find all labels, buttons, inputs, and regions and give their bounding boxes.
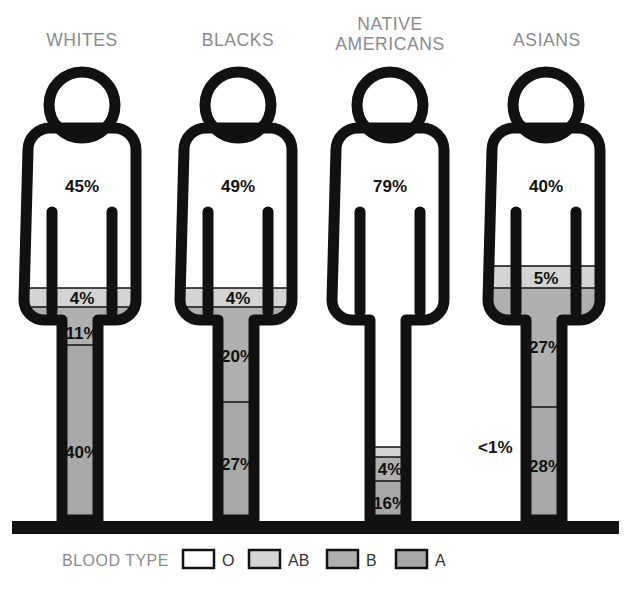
asians-label-B: 27% bbox=[529, 338, 563, 357]
legend-label-a: A bbox=[435, 552, 446, 569]
legend-swatch-a bbox=[396, 550, 427, 568]
legend-swatch-ab bbox=[249, 550, 280, 568]
native-americans-segment-AB bbox=[328, 447, 468, 457]
column-header-native-americans-line1: NATIVE bbox=[357, 14, 423, 34]
asians-label-AB: 5% bbox=[534, 269, 559, 288]
baseline-ground-bar bbox=[12, 521, 619, 534]
pictogram-stacked-bar-chart: WHITES BLACKS NATIVE AMERICANS ASIANS bbox=[0, 0, 629, 592]
legend-label-b: B bbox=[366, 552, 377, 569]
legend-label-ab: AB bbox=[288, 552, 309, 569]
native-americans-label-AB: <1% bbox=[478, 438, 513, 457]
legend-title: BLOOD TYPE bbox=[62, 552, 169, 569]
legend-item-ab[interactable]: AB bbox=[249, 550, 309, 569]
legend-item-o[interactable]: O bbox=[183, 550, 234, 569]
whites-label-A: 40% bbox=[65, 443, 99, 462]
asians-label-A: 28% bbox=[529, 457, 563, 476]
column-header-native-americans-line2: AMERICANS bbox=[335, 34, 444, 54]
native-americans-label-B: 4% bbox=[378, 460, 403, 479]
legend-item-b[interactable]: B bbox=[327, 550, 377, 569]
blacks-label-AB: 4% bbox=[226, 289, 251, 308]
whites-segment-A bbox=[20, 345, 160, 525]
legend-item-a[interactable]: A bbox=[396, 550, 446, 569]
whites-label-AB: 4% bbox=[70, 289, 95, 308]
pictogram-asians: 40% 5% 27% 28% bbox=[484, 72, 624, 525]
blacks-label-A: 27% bbox=[221, 455, 255, 474]
column-headers: WHITES BLACKS NATIVE AMERICANS ASIANS bbox=[46, 14, 581, 54]
legend-swatch-o bbox=[183, 550, 214, 568]
blacks-label-O: 49% bbox=[221, 177, 255, 196]
legend-label-o: O bbox=[222, 552, 234, 569]
asians-label-O: 40% bbox=[529, 177, 563, 196]
legend-swatch-b bbox=[327, 550, 358, 568]
native-americans-label-A: 16% bbox=[373, 494, 407, 513]
pictogram-whites: 45% 4% 11% 40% bbox=[20, 72, 160, 525]
column-header-blacks: BLACKS bbox=[202, 30, 275, 50]
whites-label-O: 45% bbox=[65, 177, 99, 196]
column-header-asians: ASIANS bbox=[513, 30, 581, 50]
blacks-label-B: 20% bbox=[221, 347, 255, 366]
column-header-whites: WHITES bbox=[46, 30, 118, 50]
pictogram-blacks: 49% 4% 20% 27% bbox=[176, 72, 316, 525]
blood-type-infographic: WHITES BLACKS NATIVE AMERICANS ASIANS bbox=[0, 0, 629, 592]
legend: BLOOD TYPE O AB B A bbox=[62, 550, 446, 569]
whites-label-B: 11% bbox=[65, 324, 98, 343]
native-americans-label-O: 79% bbox=[373, 177, 407, 196]
